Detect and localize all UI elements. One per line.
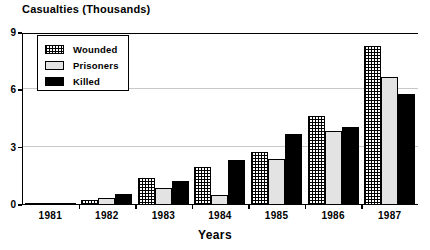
bar-group: [361, 33, 418, 205]
bar-prisoners-1981: [42, 203, 59, 205]
x-axis-tick-label: 1981: [22, 210, 79, 221]
y-axis-tick-label: 3: [0, 143, 16, 153]
y-axis-tick-label: 6: [0, 85, 16, 95]
chart-title: Casualties (Thousands): [22, 3, 150, 15]
legend-label: Wounded: [73, 44, 118, 55]
bar-killed-1982: [115, 194, 132, 205]
bar-group: [192, 33, 249, 205]
legend-swatch-wounded: [45, 45, 64, 54]
bar-prisoners-1985: [268, 159, 285, 205]
bar-chart: Casualties (Thousands) 9630 198119821983…: [0, 0, 430, 250]
x-axis-tick-label: 1983: [135, 210, 192, 221]
x-axis-tick-label: 1984: [192, 210, 249, 221]
bar-wounded-1985: [251, 152, 268, 206]
x-axis-tick-mark: [135, 205, 137, 209]
bar-killed-1983: [172, 181, 189, 205]
legend-label: Killed: [73, 76, 100, 87]
x-axis-tick-label: 1987: [361, 210, 418, 221]
bar-group: [248, 33, 305, 205]
x-axis-title: Years: [0, 228, 430, 242]
bar-killed-1985: [285, 134, 302, 205]
y-axis-tick-label: 0: [0, 200, 16, 210]
bar-killed-1981: [59, 203, 76, 205]
bar-prisoners-1982: [98, 198, 115, 205]
bar-wounded-1981: [25, 203, 42, 205]
bar-prisoners-1983: [155, 188, 172, 205]
x-axis-tick-mark: [361, 205, 363, 209]
legend-label: Prisoners: [73, 60, 119, 71]
legend-swatch-killed: [45, 77, 64, 86]
x-axis-tick-label: 1985: [248, 210, 305, 221]
bar-group: [135, 33, 192, 205]
legend-item-killed: Killed: [45, 75, 100, 87]
bar-wounded-1987: [364, 46, 381, 205]
x-axis-tick-label: 1982: [79, 210, 136, 221]
bar-wounded-1986: [308, 116, 325, 205]
bar-killed-1987: [398, 94, 415, 205]
bar-wounded-1984: [194, 167, 211, 205]
bar-prisoners-1984: [211, 195, 228, 205]
x-axis-tick-mark: [79, 205, 81, 209]
bar-killed-1984: [228, 160, 245, 205]
x-axis-tick-mark: [305, 205, 307, 209]
y-axis-tick-label: 9: [0, 28, 16, 38]
legend-item-wounded: Wounded: [45, 43, 118, 55]
bar-group: [305, 33, 362, 205]
legend-item-prisoners: Prisoners: [45, 59, 119, 71]
chart-legend: WoundedPrisonersKilled: [37, 35, 129, 91]
x-axis-tick-mark: [248, 205, 250, 209]
bar-wounded-1982: [81, 200, 98, 205]
bar-wounded-1983: [138, 178, 155, 205]
x-axis-tick-label: 1986: [305, 210, 362, 221]
bar-prisoners-1986: [325, 131, 342, 205]
bar-killed-1986: [342, 127, 359, 205]
legend-swatch-prisoners: [45, 61, 64, 70]
bar-prisoners-1987: [381, 77, 398, 205]
x-axis-tick-mark: [192, 205, 194, 209]
